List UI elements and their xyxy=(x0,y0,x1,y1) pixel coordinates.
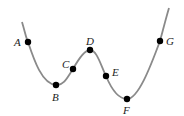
svg-text:D: D xyxy=(85,35,94,47)
svg-text:E: E xyxy=(111,66,119,78)
svg-text:F: F xyxy=(122,104,130,116)
svg-text:G: G xyxy=(166,35,174,47)
svg-text:B: B xyxy=(52,91,59,103)
curve xyxy=(22,8,169,99)
svg-text:C: C xyxy=(62,58,70,70)
point-c: C xyxy=(62,58,76,72)
point-b: B xyxy=(52,82,59,103)
svg-text:A: A xyxy=(13,36,21,48)
curve-diagram: A B C D E F G xyxy=(0,0,184,116)
